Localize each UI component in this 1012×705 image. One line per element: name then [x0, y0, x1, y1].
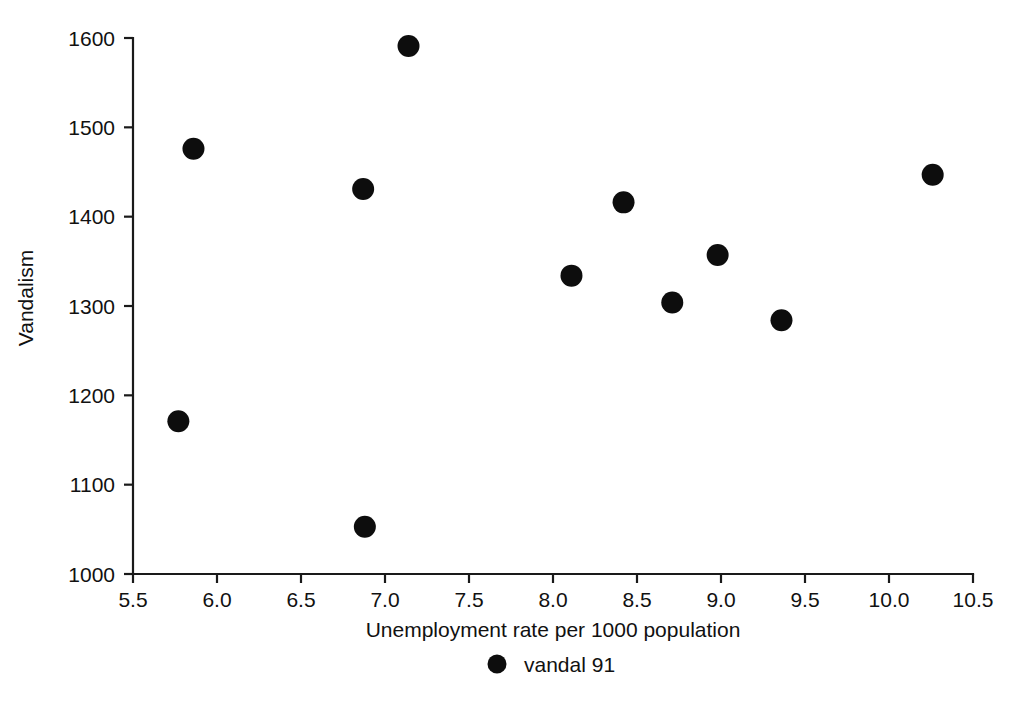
y-tick-label: 1400 [68, 205, 115, 228]
x-tick-label: 8.5 [622, 588, 651, 611]
data-point [560, 265, 582, 287]
y-tick-label: 1200 [68, 384, 115, 407]
data-point [182, 138, 204, 160]
plot-area: 1000110012001300140015001600 5.56.06.57.… [0, 0, 1012, 705]
data-point [167, 410, 189, 432]
legend: vandal 91 [488, 653, 616, 676]
x-tick-label: 6.0 [202, 588, 231, 611]
y-axis-title: Vandalism [14, 250, 37, 347]
x-tick-label: 10.0 [869, 588, 910, 611]
data-point [661, 291, 683, 313]
legend-marker-icon [488, 655, 507, 674]
y-tick-label: 1500 [68, 116, 115, 139]
y-tick-label: 1600 [68, 27, 115, 50]
y-tick-label: 1000 [68, 563, 115, 586]
data-point [707, 244, 729, 266]
x-tick-label: 7.0 [370, 588, 399, 611]
x-tick-label: 10.5 [953, 588, 994, 611]
x-tick-label: 7.5 [454, 588, 483, 611]
data-point [354, 516, 376, 538]
y-tick-label: 1300 [68, 295, 115, 318]
x-tick-label: 5.5 [118, 588, 147, 611]
x-tick-label: 6.5 [286, 588, 315, 611]
x-axis-ticks: 5.56.06.57.07.58.08.59.09.510.010.5 [118, 574, 993, 611]
y-tick-label: 1100 [70, 473, 115, 496]
scatter-chart: 1000110012001300140015001600 5.56.06.57.… [0, 0, 1012, 705]
data-points-group [167, 35, 943, 538]
legend-entry-label: vandal 91 [524, 653, 615, 676]
x-tick-label: 9.5 [790, 588, 819, 611]
data-point [613, 191, 635, 213]
data-point [922, 164, 944, 186]
x-tick-label: 8.0 [538, 588, 567, 611]
data-point [770, 309, 792, 331]
y-axis-ticks: 1000110012001300140015001600 [68, 27, 133, 586]
x-axis-title: Unemployment rate per 1000 population [366, 618, 741, 641]
data-point [352, 178, 374, 200]
x-tick-label: 9.0 [706, 588, 735, 611]
data-point [398, 35, 420, 57]
